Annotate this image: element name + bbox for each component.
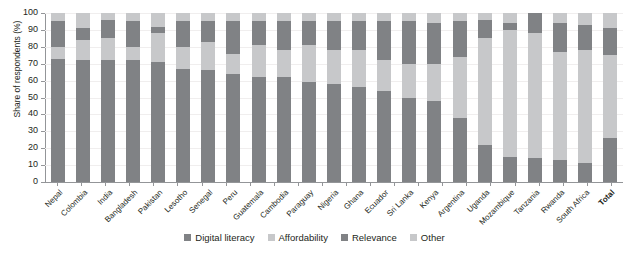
bar-group[interactable]: [397, 13, 422, 182]
stacked-bar[interactable]: [201, 13, 215, 182]
bar-segment[interactable]: [503, 30, 517, 157]
bar-segment[interactable]: [352, 13, 366, 21]
bar-segment[interactable]: [603, 13, 617, 28]
bar-group[interactable]: [120, 13, 145, 182]
bar-segment[interactable]: [51, 21, 65, 46]
bar-segment[interactable]: [453, 57, 467, 118]
bar-segment[interactable]: [327, 21, 341, 50]
bar-segment[interactable]: [277, 77, 291, 182]
bar-segment[interactable]: [352, 50, 366, 87]
bar-segment[interactable]: [377, 60, 391, 90]
bar-segment[interactable]: [226, 13, 240, 21]
bar-segment[interactable]: [76, 60, 90, 182]
bar-segment[interactable]: [427, 64, 441, 101]
bar-segment[interactable]: [603, 28, 617, 55]
bar-segment[interactable]: [151, 27, 165, 34]
stacked-bar[interactable]: [478, 13, 492, 182]
bar-segment[interactable]: [453, 13, 467, 21]
bar-segment[interactable]: [327, 13, 341, 21]
bar-segment[interactable]: [302, 21, 316, 45]
bar-segment[interactable]: [201, 42, 215, 71]
bar-segment[interactable]: [176, 21, 190, 46]
bar-segment[interactable]: [126, 21, 140, 46]
bar-segment[interactable]: [553, 160, 567, 182]
stacked-bar[interactable]: [76, 13, 90, 182]
legend-item[interactable]: Digital literacy: [184, 232, 254, 243]
stacked-bar[interactable]: [126, 13, 140, 182]
bar-group[interactable]: [522, 13, 547, 182]
bar-segment[interactable]: [126, 47, 140, 61]
bar-segment[interactable]: [277, 21, 291, 50]
bar-group[interactable]: [598, 13, 623, 182]
bar-segment[interactable]: [377, 13, 391, 21]
bar-segment[interactable]: [553, 23, 567, 52]
bar-segment[interactable]: [201, 70, 215, 182]
bar-segment[interactable]: [402, 64, 416, 98]
bar-segment[interactable]: [327, 84, 341, 182]
bar-segment[interactable]: [528, 13, 542, 33]
bar-segment[interactable]: [377, 21, 391, 60]
stacked-bar[interactable]: [352, 13, 366, 182]
bar-group[interactable]: [196, 13, 221, 182]
bar-group[interactable]: [347, 13, 372, 182]
bar-segment[interactable]: [176, 69, 190, 182]
stacked-bar[interactable]: [377, 13, 391, 182]
bar-segment[interactable]: [277, 50, 291, 77]
bar-segment[interactable]: [427, 23, 441, 64]
bar-segment[interactable]: [252, 13, 266, 21]
bar-segment[interactable]: [327, 50, 341, 84]
bar-segment[interactable]: [578, 25, 592, 50]
bar-segment[interactable]: [402, 13, 416, 21]
stacked-bar[interactable]: [327, 13, 341, 182]
bar-segment[interactable]: [603, 55, 617, 138]
bar-group[interactable]: [321, 13, 346, 182]
bar-segment[interactable]: [503, 157, 517, 182]
bar-group[interactable]: [548, 13, 573, 182]
bar-segment[interactable]: [528, 33, 542, 158]
bar-group[interactable]: [472, 13, 497, 182]
bar-segment[interactable]: [377, 91, 391, 182]
bar-segment[interactable]: [503, 23, 517, 30]
bar-segment[interactable]: [553, 13, 567, 23]
bar-segment[interactable]: [453, 118, 467, 182]
stacked-bar[interactable]: [51, 13, 65, 182]
bar-segment[interactable]: [352, 87, 366, 182]
bar-segment[interactable]: [101, 20, 115, 39]
legend-item[interactable]: Affordability: [268, 232, 328, 243]
bar-segment[interactable]: [427, 13, 441, 23]
bar-segment[interactable]: [578, 163, 592, 182]
bar-segment[interactable]: [578, 50, 592, 163]
bar-segment[interactable]: [126, 13, 140, 21]
bar-group[interactable]: [422, 13, 447, 182]
bar-segment[interactable]: [402, 21, 416, 63]
bar-group[interactable]: [171, 13, 196, 182]
bar-segment[interactable]: [302, 45, 316, 82]
bar-segment[interactable]: [151, 13, 165, 27]
stacked-bar[interactable]: [578, 13, 592, 182]
bar-segment[interactable]: [302, 82, 316, 182]
bar-group[interactable]: [70, 13, 95, 182]
bar-group[interactable]: [573, 13, 598, 182]
stacked-bar[interactable]: [528, 13, 542, 182]
bar-segment[interactable]: [352, 21, 366, 50]
bar-segment[interactable]: [76, 40, 90, 60]
bar-group[interactable]: [296, 13, 321, 182]
bar-segment[interactable]: [101, 60, 115, 182]
bar-segment[interactable]: [101, 13, 115, 20]
bar-segment[interactable]: [302, 13, 316, 21]
bar-segment[interactable]: [151, 33, 165, 62]
bar-group[interactable]: [221, 13, 246, 182]
stacked-bar[interactable]: [302, 13, 316, 182]
bar-segment[interactable]: [478, 13, 492, 20]
bar-segment[interactable]: [478, 20, 492, 39]
stacked-bar[interactable]: [151, 13, 165, 182]
bar-segment[interactable]: [176, 13, 190, 21]
bar-segment[interactable]: [252, 77, 266, 182]
stacked-bar[interactable]: [226, 13, 240, 182]
bar-segment[interactable]: [277, 13, 291, 21]
bar-group[interactable]: [45, 13, 70, 182]
bar-segment[interactable]: [603, 138, 617, 182]
bar-segment[interactable]: [51, 59, 65, 182]
bar-segment[interactable]: [101, 38, 115, 60]
stacked-bar[interactable]: [603, 13, 617, 182]
